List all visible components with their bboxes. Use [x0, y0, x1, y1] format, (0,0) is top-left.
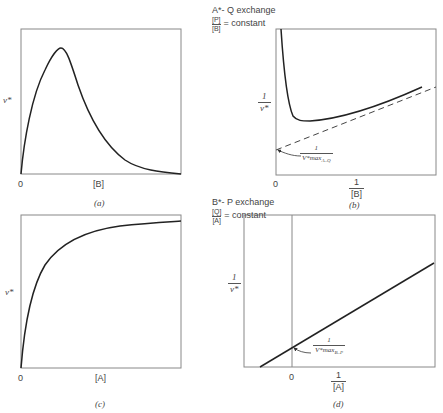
bottom-ratio: [Q] [A] — [212, 208, 221, 224]
panel-a-frame — [21, 29, 181, 174]
panel-b-xlabel-num: 1 — [352, 178, 361, 188]
panel-d-intercept-arrow — [294, 348, 311, 353]
panel-b-caption: (b) — [349, 201, 360, 210]
bottom-ratio-rhs: = constant — [224, 211, 266, 221]
panel-d-xlabel-den: [A] — [331, 381, 346, 392]
panel-b-intercept-num: 1 — [313, 145, 321, 153]
panel-d-intercept-den: V*maxB–P — [313, 345, 345, 355]
top-condition: A*- Q exchange [P] [B] = constant — [212, 6, 276, 32]
panel-b-ylabel: 1 v* — [258, 92, 271, 113]
panel-b-ylabel-den: v* — [258, 102, 271, 113]
panel-b-intercept-label: 1 V*maxA–Q — [300, 145, 333, 163]
top-condition-title: A*- Q exchange — [212, 6, 276, 16]
panel-d-xlabel-num: 1 — [334, 371, 343, 381]
panel-b-origin: 0 — [273, 180, 278, 189]
panel-d-intercept-label: 1 V*maxB–P — [313, 337, 345, 355]
panel-b-xlabel: 1 [B] — [349, 178, 364, 199]
bottom-ratio-den: [A] — [212, 216, 221, 225]
panel-c-ylabel: v* — [5, 288, 14, 297]
top-ratio-num: [P] — [212, 16, 221, 24]
panel-c-origin: 0 — [18, 374, 23, 383]
bottom-condition: B*- P exchange [Q] [A] = constant — [212, 198, 274, 224]
panel-d-caption: (d) — [333, 400, 344, 409]
panel-b-intercept-den: V*maxA–Q — [300, 153, 333, 163]
panel-a — [21, 29, 181, 174]
top-ratio: [P] [B] — [212, 16, 221, 32]
panel-b-ylabel-num: 1 — [260, 92, 269, 102]
panel-a-curve — [21, 48, 181, 174]
bottom-ratio-num: [Q] — [212, 208, 221, 216]
panel-a-origin: 0 — [18, 180, 23, 189]
panel-d-xlabel: 1 [A] — [331, 371, 346, 392]
panel-b-curve — [281, 29, 422, 121]
panel-d-line — [260, 263, 434, 367]
panel-b-intercept-vmax: V*max — [302, 154, 321, 162]
panel-d-intercept-vmax: V*max — [315, 346, 334, 354]
panel-a-xlabel: [B] — [93, 180, 104, 189]
panel-d-intercept-num: 1 — [325, 337, 333, 345]
panel-c-curve — [21, 221, 181, 368]
panel-b-asymptote — [276, 87, 436, 150]
panel-a-caption: (a) — [94, 199, 105, 208]
top-ratio-rhs: = constant — [224, 19, 266, 29]
panel-d-ylabel-den: v* — [228, 283, 241, 294]
panel-d-intercept-sub: B–P — [334, 350, 343, 355]
panel-d-origin: 0 — [289, 373, 294, 382]
panel-d-ylabel-num: 1 — [230, 273, 239, 283]
panel-b-intercept-arrow — [278, 150, 301, 156]
panel-a-ylabel: v* — [3, 96, 12, 105]
top-ratio-den: [B] — [212, 24, 221, 33]
panel-d-ylabel: 1 v* — [228, 273, 241, 294]
panel-b-xlabel-den: [B] — [349, 188, 364, 199]
panel-c-xlabel: [A] — [95, 374, 106, 383]
panel-c-caption: (c) — [95, 400, 105, 409]
panel-c-frame — [21, 215, 181, 368]
bottom-condition-title: B*- P exchange — [212, 198, 274, 208]
panel-b-intercept-sub: A–Q — [321, 158, 330, 163]
panel-c — [21, 215, 181, 368]
